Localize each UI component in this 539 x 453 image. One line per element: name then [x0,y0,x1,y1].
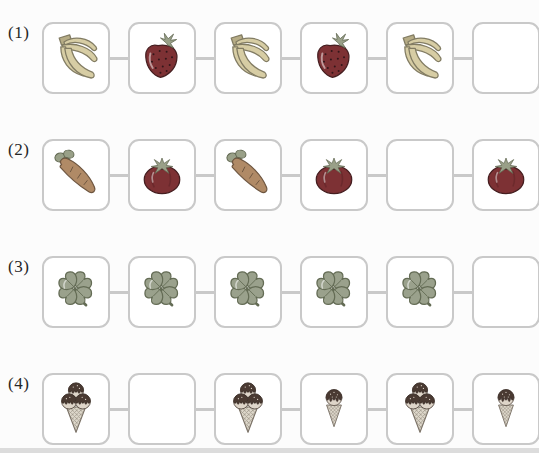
row-label-3: (3) [8,256,42,277]
strawberry-icon [135,31,189,85]
pattern-cell [128,22,196,94]
connector-line [454,22,472,94]
pattern-cell [386,373,454,445]
pattern-cell [42,22,110,94]
worksheet-page: (1) [0,0,539,453]
pattern-cell [42,373,110,445]
pattern-cell [42,256,110,328]
clover-icon [393,265,447,319]
pattern-row-1: (1) [8,22,539,94]
answer-box[interactable] [128,373,196,445]
connector-line [110,22,128,94]
connector-line [196,256,214,328]
connector-line [368,373,386,445]
pattern-cell [472,139,539,211]
connector-line [368,139,386,211]
clover-icon [135,265,189,319]
row-label-4: (4) [8,373,42,394]
answer-box[interactable] [472,22,539,94]
row-label-1: (1) [8,22,42,43]
icecream-triple-icon [224,376,272,442]
tomato-icon [307,148,361,202]
row-1-cells [42,22,539,94]
connector-line [110,256,128,328]
carrot-icon [48,147,104,203]
connector-line [282,256,300,328]
pattern-cell [300,373,368,445]
clover-icon [221,265,275,319]
connector-line [196,373,214,445]
pattern-cell [42,139,110,211]
clover-icon [49,265,103,319]
row-4-cells [42,373,539,445]
pattern-cell [300,22,368,94]
tomato-icon [135,148,189,202]
banana-icon [220,30,276,86]
pattern-cell [386,256,454,328]
strawberry-icon [307,31,361,85]
pattern-row-3: (3) [8,256,539,328]
clover-icon [307,265,361,319]
pattern-cell [214,22,282,94]
connector-line [454,139,472,211]
tomato-icon [479,148,533,202]
connector-line [282,139,300,211]
icecream-single-icon [486,378,526,440]
connector-line [368,22,386,94]
pattern-cell [214,256,282,328]
connector-line [196,139,214,211]
connector-line [454,256,472,328]
pattern-cell [300,139,368,211]
pattern-row-4: (4) [8,373,539,445]
connector-line [368,256,386,328]
banana-icon [48,30,104,86]
icecream-triple-icon [52,376,100,442]
row-label-2: (2) [8,139,42,160]
icecream-triple-icon [396,376,444,442]
answer-box[interactable] [472,256,539,328]
pattern-cell [214,373,282,445]
row-2-cells [42,139,539,211]
row-3-cells [42,256,539,328]
pattern-row-2: (2) [8,139,539,211]
pattern-cell [128,139,196,211]
connector-line [454,373,472,445]
icecream-single-icon [314,378,354,440]
connector-line [282,22,300,94]
answer-box[interactable] [386,139,454,211]
carrot-icon [220,147,276,203]
connector-line [196,22,214,94]
connector-line [110,373,128,445]
page-bottom-shadow [0,448,539,453]
pattern-cell [128,256,196,328]
pattern-cell [386,22,454,94]
connector-line [110,139,128,211]
pattern-cell [300,256,368,328]
banana-icon [392,30,448,86]
pattern-cell [472,373,539,445]
pattern-cell [214,139,282,211]
connector-line [282,373,300,445]
